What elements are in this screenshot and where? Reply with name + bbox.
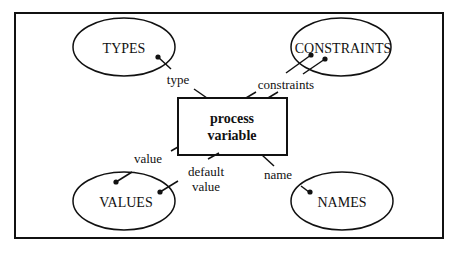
edge-default-value-dot [157,189,162,194]
edge-name: name [262,155,313,195]
edge-default-label-line1: default [188,164,224,179]
node-types: TYPES [73,18,175,76]
edge-name-dot [307,189,312,194]
edge-value-dot [113,179,118,184]
edge-type: type [155,54,207,98]
node-values: VALUES [73,172,175,230]
edge-constraints: constraints [246,52,328,98]
center-label-line2: variable [208,128,257,143]
diagram-canvas: TYPES CONSTRAINTS VALUES NAMES process v… [0,0,458,253]
center-process-variable: process variable [178,98,287,155]
node-values-label: VALUES [99,195,152,210]
edge-constraints-label: constraints [258,77,314,92]
edge-value-label: value [134,151,162,166]
edge-default-value: default value [157,153,224,195]
node-names: NAMES [291,172,393,230]
edge-default-label-line2: value [192,179,220,194]
edge-constraints-dot-2 [322,56,327,61]
node-names-label: NAMES [317,195,366,210]
edge-name-label: name [264,167,292,182]
node-constraints: CONSTRAINTS [291,18,391,76]
edge-constraints-dot-1 [308,52,313,57]
edge-value: value [113,147,178,185]
node-types-label: TYPES [103,41,146,56]
center-label-line1: process [210,111,255,126]
edge-type-label: type [167,72,190,87]
edge-type-dot [155,54,160,59]
